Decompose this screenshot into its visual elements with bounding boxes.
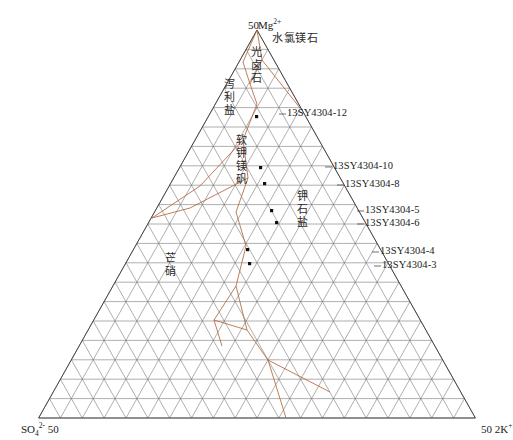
axis-label-potassium: 50 2K+	[470, 410, 512, 440]
sample-label-13sy4304-10: 13SY4304-10	[333, 160, 393, 171]
sample-label-13sy4304-3: 13SY4304-3	[382, 259, 437, 270]
data-point	[259, 166, 262, 169]
sample-label-13sy4304-4: 13SY4304-4	[380, 245, 435, 256]
sample-label-13sy4304-5: 13SY4304-5	[365, 204, 420, 215]
sample-label-13sy4304-8: 13SY4304-8	[345, 178, 400, 189]
data-point	[270, 209, 273, 212]
data-point	[263, 182, 266, 185]
sulfate-value: 50	[48, 422, 59, 434]
potassium-value: 50	[481, 422, 492, 434]
sulfate-charge: 2-	[39, 421, 45, 430]
mineral-label-bischofite: 水氯镁石	[272, 33, 318, 45]
mineral-label-picromerite: 软钾镁矾	[234, 134, 246, 186]
potassium-charge: +	[508, 421, 512, 430]
mineral-label-mirabilite: 芒硝	[163, 252, 175, 278]
apex-ion-text: Mg	[258, 18, 273, 30]
apex-ion-charge: 2+	[273, 17, 281, 26]
mineral-label-sylvite: 钾石盐	[295, 190, 307, 229]
sample-label-13sy4304-6: 13SY4304-6	[365, 217, 420, 228]
mineral-label-epsomite: 泻利盐	[222, 78, 234, 117]
data-point	[255, 115, 258, 118]
data-point	[275, 221, 278, 224]
mineral-label-carnallite: 光卤石	[249, 46, 261, 85]
sample-label-13sy4304-12: 13SY4304-12	[287, 107, 347, 118]
data-point	[246, 248, 249, 251]
apex-value-mg: 50	[248, 20, 259, 32]
potassium-ion-text: 2K	[495, 422, 508, 434]
axis-label-sulfate: SO42- 50	[10, 410, 59, 440]
data-point	[248, 262, 251, 265]
sulfate-ion-text: SO	[21, 422, 35, 434]
